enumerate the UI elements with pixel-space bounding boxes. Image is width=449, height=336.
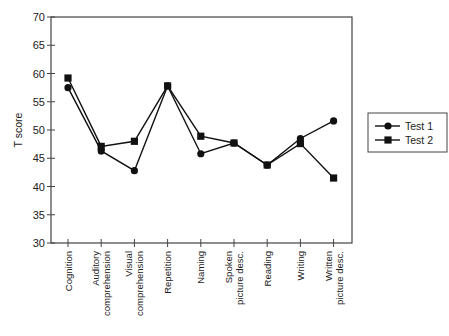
legend-label: Test 1 <box>405 120 433 132</box>
series-test-2 <box>64 74 337 181</box>
x-category-label: comprehension <box>134 251 145 316</box>
axes <box>51 17 352 243</box>
legend: Test 1Test 2 <box>368 113 447 152</box>
y-tick-label: 70 <box>33 11 45 23</box>
circle-marker <box>197 150 204 157</box>
square-icon <box>384 136 391 143</box>
circle-marker <box>330 117 337 124</box>
y-axis-title: T score <box>12 112 24 147</box>
y-tick-label: 45 <box>33 152 45 164</box>
x-category-label: picture desc. <box>334 251 345 305</box>
y-tick-label: 40 <box>33 181 45 193</box>
x-category-label: Writing <box>295 251 306 280</box>
x-category-label: Cognition <box>63 251 74 291</box>
series-line <box>68 86 334 171</box>
square-marker <box>297 140 304 147</box>
y-tick-label: 30 <box>33 237 45 249</box>
x-category-label: Auditory <box>90 251 101 286</box>
line-chart: 303540455055606570 CognitionAuditorycomp… <box>0 0 449 336</box>
y-tick-label: 65 <box>33 39 45 51</box>
x-category-label: Visual <box>123 251 134 277</box>
x-category-label: Naming <box>195 251 206 284</box>
y-axis-ticks: 303540455055606570 <box>33 11 55 249</box>
y-tick-label: 35 <box>33 209 45 221</box>
y-tick-label: 50 <box>33 124 45 136</box>
x-category-label: Spoken <box>223 251 234 283</box>
x-category-label: picture desc. <box>234 251 245 305</box>
y-tick-label: 60 <box>33 68 45 80</box>
x-category-label: Reading <box>262 251 273 286</box>
data-series <box>64 74 337 181</box>
square-marker <box>330 174 337 181</box>
legend-box <box>368 113 447 152</box>
x-axis-ticks: CognitionAuditorycomprehensionVisualcomp… <box>63 239 345 316</box>
square-marker <box>230 139 237 146</box>
square-marker <box>98 143 105 150</box>
y-tick-label: 55 <box>33 96 45 108</box>
plot-frame <box>51 17 352 243</box>
square-marker <box>197 133 204 140</box>
x-category-label: Repetition <box>162 251 173 294</box>
x-category-label: Written <box>323 251 334 281</box>
x-category-label: comprehension <box>101 251 112 316</box>
legend-label: Test 2 <box>405 134 433 146</box>
square-marker <box>131 138 138 145</box>
square-marker <box>164 82 171 89</box>
series-test-1 <box>64 82 337 174</box>
circle-marker <box>131 167 138 174</box>
square-marker <box>64 74 71 81</box>
circle-icon <box>384 122 391 129</box>
circle-marker <box>64 84 71 91</box>
square-marker <box>264 161 271 168</box>
series-line <box>68 78 334 178</box>
